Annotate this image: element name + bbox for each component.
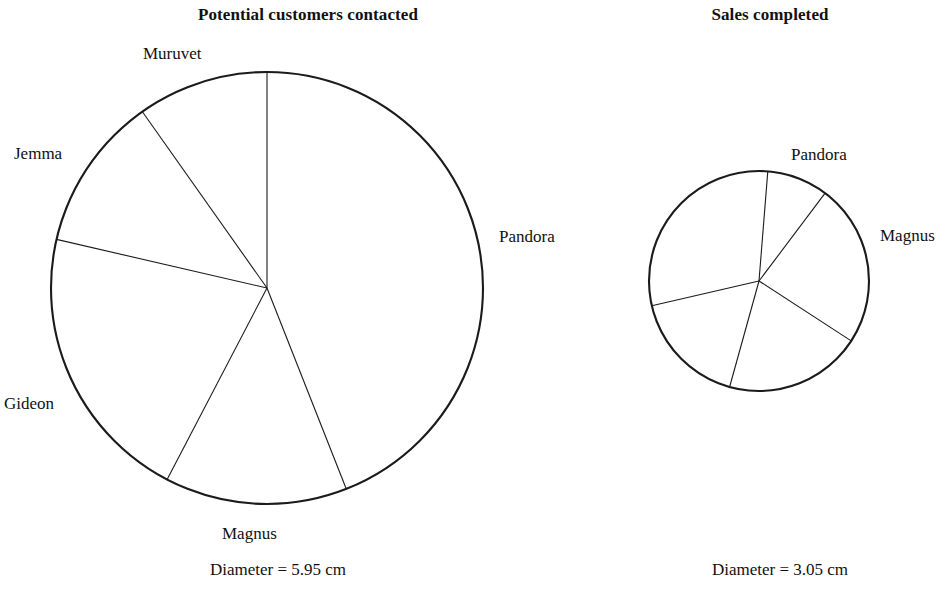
pie-chart-potential-customers-contacted [0, 0, 945, 589]
figure-canvas: Potential customers contacted Sales comp… [0, 0, 945, 589]
caption-diameter-contacted: Diameter = 5.95 cm [118, 560, 438, 580]
pie-outline-contacted [51, 72, 483, 504]
pie-slice-label-gideon: Gideon [4, 395, 54, 412]
pie-slice-label-sales-pandora: Pandora [791, 146, 847, 163]
pie-divider-sales-2 [759, 281, 851, 341]
pie-slice-label-muruvet: Muruvet [143, 45, 202, 62]
chart-title-potential-customers-contacted: Potential customers contacted [128, 5, 488, 25]
pie-divider-sales-0 [759, 171, 768, 281]
pie-outline-sales [649, 171, 869, 391]
pie-slice-label-jemma: Jemma [14, 145, 62, 162]
pie-divider-contacted-2 [167, 288, 267, 480]
pie-divider-contacted-1 [267, 288, 346, 489]
pie-chart-sales-completed [0, 0, 945, 589]
caption-diameter-sales: Diameter = 3.05 cm [640, 560, 920, 580]
pie-slice-label-sales-magnus: Magnus [880, 227, 935, 244]
pie-slice-label-magnus: Magnus [222, 525, 277, 542]
pie-slice-label-pandora: Pandora [499, 228, 555, 245]
pie-divider-sales-4 [652, 281, 759, 306]
pie-divider-contacted-4 [142, 112, 267, 288]
pie-divider-contacted-3 [57, 239, 268, 288]
pie-divider-sales-3 [730, 281, 759, 387]
chart-title-sales-completed: Sales completed [660, 5, 880, 25]
pie-divider-sales-1 [759, 193, 825, 281]
